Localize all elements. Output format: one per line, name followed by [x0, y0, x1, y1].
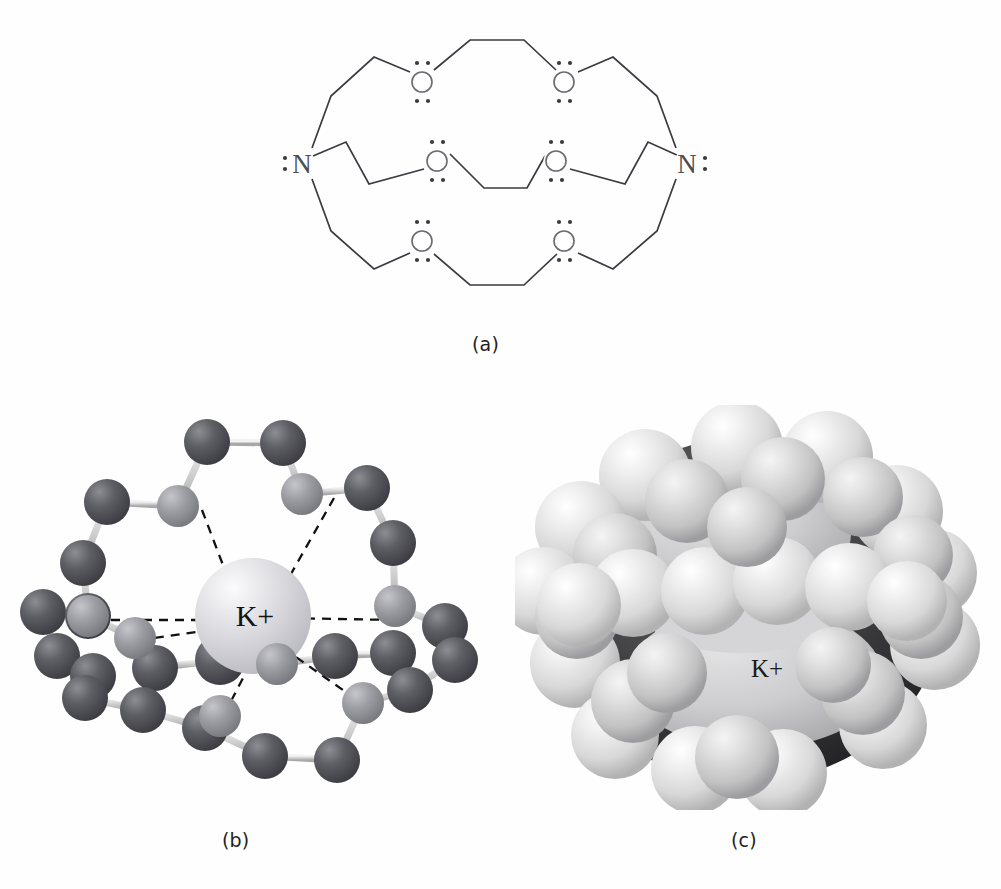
lone-pair-dot: [557, 258, 561, 262]
lone-pair-dot: [549, 140, 553, 144]
figure-root: N N: [0, 0, 1001, 889]
bond-chain-top-center: [434, 40, 556, 70]
atom-oxygen-top-right: [552, 61, 577, 103]
carbon-atom: [60, 540, 106, 586]
atom-oxygen-mid-right: [544, 140, 569, 182]
bond-chain-mid-right: [570, 142, 679, 184]
bond-chain-mid-left: [313, 142, 424, 184]
bond-chain-top-left: [312, 57, 410, 148]
lone-pair-dot: [549, 178, 553, 182]
bond-chain-mid-center: [450, 154, 545, 188]
carbon-atom: [314, 737, 360, 783]
oxygen-atom: [256, 643, 298, 685]
carbon-atom: [62, 675, 108, 721]
space-filling-svg: K+: [515, 405, 980, 810]
oxygen-atom: [114, 617, 156, 659]
lewis-structure-svg: N N: [0, 0, 1001, 380]
lone-pair-dot: [560, 178, 564, 182]
lone-pair-dot: [560, 140, 564, 144]
lone-pair-dot: [441, 178, 445, 182]
carbon-atom: [260, 420, 306, 466]
lone-pair-dot: [557, 61, 561, 65]
carbon-atom: [184, 419, 230, 465]
bond-chain-bottom-center: [434, 254, 557, 285]
oxygen-atom: [374, 585, 416, 627]
lone-pair-dot: [430, 178, 434, 182]
lone-pair-dot: [703, 156, 707, 160]
atom-label-nitrogen-left: N: [292, 149, 312, 179]
carbon-atom: [120, 687, 166, 733]
lone-pair-dot: [426, 220, 430, 224]
panel-b-ball-and-stick: K+: [15, 398, 485, 808]
potassium-ion-label: K+: [751, 655, 783, 682]
caption-b: (b): [222, 829, 250, 851]
lone-pair-dot: [568, 61, 572, 65]
lone-pair-dot: [415, 61, 419, 65]
carbon-atom: [344, 465, 390, 511]
lone-pair-dot: [426, 99, 430, 103]
lone-pair-dot: [426, 61, 430, 65]
bond-chain-top-right: [578, 57, 676, 148]
panel-c-space-filling: K+: [515, 405, 980, 810]
lone-pair-dot: [426, 258, 430, 262]
lone-pair-dot: [568, 99, 572, 103]
lone-pair-dot: [415, 220, 419, 224]
carbon-atom: [432, 637, 478, 683]
atom-label-nitrogen-right: N: [677, 149, 697, 179]
atom-nitrogen-right: N: [674, 149, 707, 179]
potassium-ion-label: K+: [236, 599, 275, 632]
lone-pair-dot: [430, 140, 434, 144]
atom-sphere: [627, 633, 707, 713]
bond-chain-bottom-right: [578, 179, 676, 269]
lone-pair-dot: [415, 99, 419, 103]
nitrogen-atom: [342, 682, 384, 724]
lone-pair-dot: [557, 99, 561, 103]
oxygen-atom: [157, 485, 199, 527]
lone-pair-dot: [283, 167, 287, 171]
oxygen-atom: [199, 695, 241, 737]
caption-a: (a): [472, 333, 499, 355]
atom-sphere: [795, 627, 871, 703]
atom-sphere: [707, 487, 787, 567]
bond-network: [312, 40, 679, 285]
atom-sphere: [695, 715, 779, 799]
carbon-atom: [20, 589, 66, 635]
carbon-atom: [242, 733, 288, 779]
nitrogen-atom: [67, 595, 109, 637]
oxygen-atom: [281, 473, 323, 515]
lone-pair-dot: [557, 220, 561, 224]
carbon-atom: [84, 479, 130, 525]
atom-oxygen-mid-left: [425, 140, 450, 182]
atom-oxygen-top-left: [410, 61, 435, 103]
lone-pair-dot: [441, 140, 445, 144]
carbon-atom: [370, 520, 416, 566]
panel-a-lewis-structure: N N: [0, 0, 1001, 380]
atom-sphere: [867, 561, 947, 641]
ball-and-stick-svg: K+: [15, 398, 485, 808]
lone-pair-dot: [703, 167, 707, 171]
bond-chain-bottom-left: [312, 179, 410, 269]
lone-pair-dot: [283, 156, 287, 160]
carbon-atom: [312, 633, 358, 679]
lone-pair-dot: [568, 258, 572, 262]
atom-nitrogen-left: N: [283, 149, 315, 179]
atom-sphere: [537, 563, 621, 647]
caption-c: (c): [731, 829, 757, 851]
lone-pair-dot: [568, 220, 572, 224]
carbon-atom: [387, 667, 433, 713]
atom-oxygen-bottom-left: [410, 220, 435, 262]
lone-pair-dot: [415, 258, 419, 262]
